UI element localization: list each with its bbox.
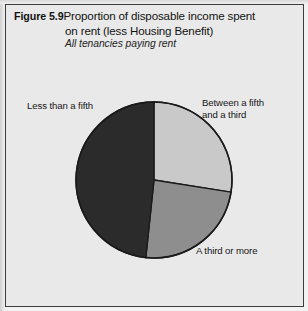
pie-label-less-than-a-fifth: Less than a fifth [27,100,93,112]
figure-subtitle: All tenancies paying rent [14,37,292,50]
figure-title-block: Figure 5.9Proportion of disposable incom… [14,9,292,50]
page-gutter-shading [0,0,5,311]
pie-label-a-third-or-more: A third or more [196,245,257,257]
figure-title-line-2: on rent (less Housing Benefit) [14,24,292,38]
pie-chart: Less than a fifth Between a fifth and a … [6,62,303,306]
pie-slice [76,102,154,258]
page-top-shading [0,0,308,4]
figure-title-line-1: Proportion of disposable income spent [63,9,255,22]
pie-label-between-a-fifth-and-a-third: Between a fifth and a third [202,97,264,120]
figure-number: Figure 5.9 [14,10,63,22]
figure-title-first-line: Figure 5.9Proportion of disposable incom… [14,9,292,24]
figure-container: Figure 5.9Proportion of disposable incom… [0,0,308,311]
